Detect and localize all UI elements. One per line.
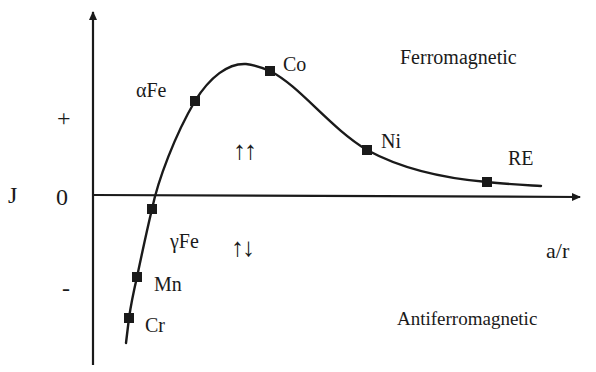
parallel-spins-icon: ↑↑ xyxy=(233,138,255,164)
marker-cr-icon xyxy=(124,313,134,323)
point-label-ni: Ni xyxy=(381,131,401,151)
marker-re-icon xyxy=(482,177,492,187)
marker-fe-icon xyxy=(147,204,157,214)
y-tick-plus: + xyxy=(57,106,71,130)
point-label-gamma-fe: γFe xyxy=(170,231,199,251)
marker-mn-icon xyxy=(132,272,142,282)
marker-fe-icon xyxy=(190,96,200,106)
y-tick-zero: 0 xyxy=(56,185,68,209)
x-axis xyxy=(93,195,580,197)
bethe-slater-curve xyxy=(126,64,541,343)
antiparallel-spins-icon: ↑↓ xyxy=(231,235,253,261)
point-label-alpha-fe: αFe xyxy=(136,80,166,100)
ferromagnetic-label: Ferromagnetic xyxy=(400,47,517,67)
point-label-mn: Mn xyxy=(154,274,182,294)
point-label-cr: Cr xyxy=(145,315,165,335)
y-tick-minus: - xyxy=(62,276,70,300)
marker-co-icon xyxy=(265,66,275,76)
point-label-re: RE xyxy=(508,148,534,168)
point-label-co: Co xyxy=(283,54,306,74)
antiferromagnetic-label: Antiferromagnetic xyxy=(397,309,537,328)
marker-ni-icon xyxy=(362,145,372,155)
bethe-slater-diagram: J + 0 - a/r Ferromagnetic Antiferromagne… xyxy=(0,0,596,372)
y-axis-label: J xyxy=(8,183,17,207)
x-axis-label: a/r xyxy=(546,240,569,262)
